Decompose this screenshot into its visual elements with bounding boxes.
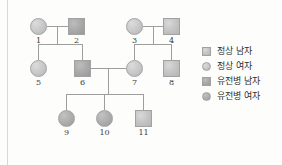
normal-female-circle-icon: [126, 60, 143, 77]
pedigree-node-label-1: 1: [30, 36, 47, 45]
normal-male-square-icon: [163, 60, 180, 77]
pedigree-node-3[interactable]: 3: [126, 18, 143, 35]
normal-female-circle-icon: [30, 60, 47, 77]
sib-stem-5: [38, 44, 39, 60]
legend-item-normal-male: 정상 남자: [202, 44, 280, 59]
sib-stem-6: [82, 44, 83, 60]
normal-female-circle-icon: [202, 62, 211, 71]
pedigree-node-9[interactable]: 9: [58, 110, 75, 127]
normal-female-circle-icon: [30, 18, 47, 35]
legend-label-affected-female: 유전병 여자: [217, 91, 260, 102]
sib-stem-11: [143, 94, 144, 110]
normal-male-square-icon: [135, 110, 152, 127]
sib-stem-7: [134, 44, 135, 60]
pedigree-node-1[interactable]: 1: [30, 18, 47, 35]
legend-item-affected-female: 유전병 여자: [202, 89, 280, 104]
pedigree-node-label-9: 9: [58, 128, 75, 137]
normal-male-square-icon: [202, 47, 211, 56]
normal-male-square-icon: [163, 18, 180, 35]
legend-label-normal-male: 정상 남자: [217, 46, 252, 57]
affected-male-square-icon: [202, 77, 211, 86]
legend-label-normal-female: 정상 여자: [217, 61, 252, 72]
sib-stem-8: [171, 44, 172, 60]
sib-stem-9: [66, 94, 67, 110]
legend: 정상 남자 정상 여자 유전병 남자 유전병 여자: [202, 44, 280, 104]
pedigree-node-2[interactable]: 2: [68, 18, 85, 35]
pedigree-node-label-11: 11: [135, 128, 152, 137]
descent-line-3x4: [153, 26, 154, 44]
affected-male-square-icon: [74, 60, 91, 77]
pedigree-node-10[interactable]: 10: [96, 110, 113, 127]
affected-male-square-icon: [68, 18, 85, 35]
legend-item-normal-female: 정상 여자: [202, 59, 280, 74]
pedigree-node-label-10: 10: [96, 128, 113, 137]
normal-female-circle-icon: [126, 18, 143, 35]
pedigree-node-label-6: 6: [74, 78, 91, 87]
pedigree-node-label-2: 2: [68, 36, 85, 45]
legend-label-affected-male: 유전병 남자: [217, 76, 260, 87]
pedigree-node-7[interactable]: 7: [126, 60, 143, 77]
pedigree-node-label-3: 3: [126, 36, 143, 45]
pedigree-node-label-7: 7: [126, 78, 143, 87]
pedigree-node-11[interactable]: 11: [135, 110, 152, 127]
affected-female-circle-icon: [202, 92, 211, 101]
descent-line-1x2: [57, 26, 58, 44]
pedigree-node-6[interactable]: 6: [74, 60, 91, 77]
pedigree-diagram: 1 2 3 4 5 6 7 8: [0, 0, 200, 165]
pedigree-node-label-5: 5: [30, 78, 47, 87]
affected-female-circle-icon: [58, 110, 75, 127]
pedigree-node-5[interactable]: 5: [30, 60, 47, 77]
descent-line-6x7: [108, 68, 109, 94]
pedigree-node-label-8: 8: [163, 78, 180, 87]
pedigree-node-8[interactable]: 8: [163, 60, 180, 77]
pedigree-node-4[interactable]: 4: [163, 18, 180, 35]
sibship-line-9-10-11: [66, 94, 144, 95]
legend-item-affected-male: 유전병 남자: [202, 74, 280, 89]
pedigree-figure: 1 2 3 4 5 6 7 8: [0, 0, 282, 165]
pedigree-node-label-4: 4: [163, 36, 180, 45]
sib-stem-10: [104, 94, 105, 110]
affected-female-circle-icon: [96, 110, 113, 127]
